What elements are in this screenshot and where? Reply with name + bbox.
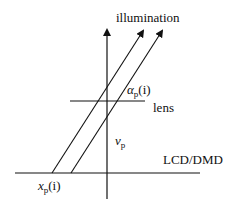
x-argument: (i) [48,178,60,193]
ray-1 [52,31,143,173]
lens-label: lens [153,101,174,114]
ray-2 [71,31,162,173]
alpha-label: αp(i) [127,83,151,99]
alpha-symbol: α [127,82,134,97]
lcd-dmd-label: LCD/DMD [163,153,223,166]
v-label: vp [115,134,125,150]
alpha-argument: (i) [138,82,150,97]
illumination-label: illumination [116,11,180,24]
optics-diagram [0,0,235,209]
x-label: xp(i) [38,179,61,195]
v-subscript: p [121,140,126,150]
